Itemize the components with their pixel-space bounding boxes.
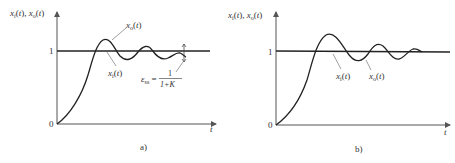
- leader-input: [333, 54, 341, 69]
- x-axis-label: t: [444, 127, 447, 137]
- leader-error: [176, 62, 183, 72]
- error-numerator: 1: [168, 69, 172, 78]
- x-axis-label: t: [210, 124, 213, 134]
- y-axis-label: xi(t), xo(t): [227, 10, 262, 21]
- figure: xi(t), xo(t) 0 1 t xo(t) xi(t) εss = 1 1…: [0, 0, 455, 163]
- tick-one: 1: [49, 46, 54, 56]
- leader-output: [366, 60, 371, 70]
- leader-output: [112, 28, 126, 40]
- output-curve-label: xo(t): [125, 20, 142, 31]
- error-label: εss =: [141, 74, 157, 85]
- tick-zero: 0: [49, 119, 54, 129]
- tick-one: 1: [268, 47, 273, 57]
- input-curve: [276, 51, 450, 52]
- leader-input: [107, 52, 116, 66]
- tick-zero: 0: [268, 120, 273, 130]
- input-curve-label: xi(t): [335, 71, 350, 82]
- input-curve-label: xi(t): [107, 68, 122, 79]
- panel-a: xi(t), xo(t) 0 1 t xo(t) xi(t) εss = 1 1…: [9, 8, 216, 152]
- error-denominator: 1+K: [160, 80, 175, 89]
- output-curve-label: xo(t): [368, 71, 385, 82]
- caption-b: b): [355, 144, 363, 154]
- y-axis-label: xi(t), xo(t): [9, 8, 44, 19]
- panel-b: xi(t), xo(t) 0 1 t xi(t) xo(t) b): [227, 10, 450, 154]
- caption-a: a): [140, 142, 147, 152]
